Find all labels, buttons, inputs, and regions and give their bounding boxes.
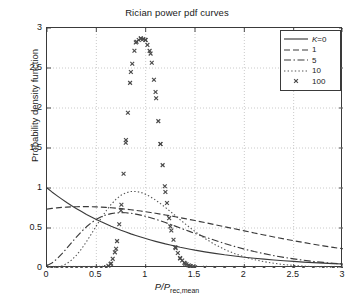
y-tick-label: 3 [2, 22, 42, 32]
legend-item: 5 [283, 55, 337, 66]
x-tick-label: 0 [26, 269, 66, 279]
x-tick-label: 3 [322, 269, 354, 279]
y-tick-label: 2.5 [2, 62, 42, 72]
legend-line-sample [283, 55, 309, 65]
chart-legend: K=01510100 [280, 30, 341, 91]
y-tick-label: 2 [2, 102, 42, 112]
x-tick-label: 2 [223, 269, 263, 279]
legend-label: 1 [309, 45, 316, 54]
legend-label: 100 [309, 77, 325, 86]
y-tick-label: 1 [2, 182, 42, 192]
x-axis-label-main: P/P [155, 281, 170, 292]
legend-item: 1 [283, 45, 337, 56]
legend-item: 100 [283, 76, 337, 87]
chart-title: Rician power pdf curves [0, 7, 354, 18]
legend-line-sample [283, 45, 309, 55]
y-tick-label: 1.5 [2, 142, 42, 152]
legend-label: K=0 [309, 35, 326, 44]
chart-figure: Rician power pdf curves Probability dens… [0, 0, 354, 302]
legend-line-sample [283, 66, 309, 76]
x-axis-label-subscript: rec,mean [170, 287, 199, 294]
x-axis-label: P/Prec,mean [0, 281, 354, 294]
x-tick-label: 1.5 [174, 269, 214, 279]
x-tick-label: 1 [125, 269, 165, 279]
legend-item: 10 [283, 66, 337, 77]
legend-item: K=0 [283, 34, 337, 45]
legend-label: 5 [309, 56, 316, 65]
x-tick-label: 0.5 [75, 269, 115, 279]
x-tick-label: 2.5 [273, 269, 313, 279]
legend-line-sample [283, 76, 309, 86]
y-tick-label: 0.5 [2, 222, 42, 232]
legend-line-sample [283, 34, 309, 44]
legend-label: 10 [309, 66, 321, 75]
